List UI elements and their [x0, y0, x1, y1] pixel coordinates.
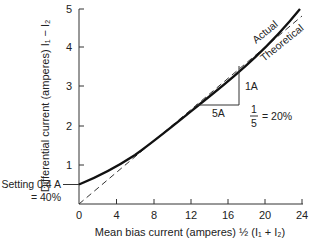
svg-text:2: 2 — [66, 120, 72, 132]
y-ticks — [79, 9, 84, 165]
rise-label: 1A — [245, 80, 258, 92]
svg-text:20: 20 — [259, 209, 271, 221]
svg-text:24: 24 — [296, 209, 308, 221]
setting-label-line1: Setting 0.4 A — [1, 178, 61, 190]
y-axis-title: Differential current (amperes) I₁ − I₂ — [39, 20, 51, 193]
svg-text:5: 5 — [66, 3, 72, 15]
slope-triangle — [196, 66, 239, 105]
ratio-denominator: 5 — [251, 117, 257, 129]
svg-text:4: 4 — [66, 41, 72, 53]
x-tick-labels: 0 4 8 12 16 20 24 — [76, 209, 308, 221]
bias-characteristic-chart: 1 2 3 4 5 0 4 8 12 16 20 24 Mean bias cu… — [0, 0, 310, 240]
ratio-equals: = 20% — [262, 110, 292, 122]
svg-text:4: 4 — [113, 209, 119, 221]
x-ticks — [117, 199, 303, 204]
y-tick-labels: 1 2 3 4 5 — [66, 3, 72, 171]
svg-text:16: 16 — [222, 209, 234, 221]
svg-text:3: 3 — [66, 80, 72, 92]
svg-text:12: 12 — [185, 209, 197, 221]
x-axis-title: Mean bias current (amperes) ½ (I₁ + I₂) — [95, 226, 285, 238]
svg-text:8: 8 — [151, 209, 157, 221]
setting-label-line2: = 40% — [31, 191, 61, 203]
svg-text:1: 1 — [66, 159, 72, 171]
run-label: 5A — [212, 107, 225, 119]
svg-text:0: 0 — [76, 209, 82, 221]
ratio-numerator: 1 — [251, 103, 257, 115]
